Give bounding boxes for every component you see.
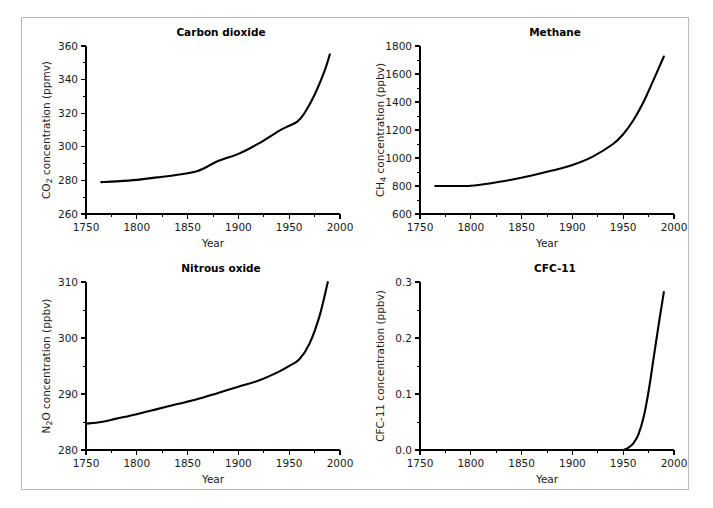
y-tick-label: 280 [58, 174, 78, 186]
x-tick-label: 1800 [123, 221, 150, 233]
x-tick-label: 1850 [174, 457, 201, 469]
x-tick-label: 2000 [327, 221, 354, 233]
panel-title: Nitrous oxide [181, 262, 260, 274]
y-tick-label: 600 [392, 208, 412, 220]
x-tick-label: 2000 [327, 457, 354, 469]
x-tick-label: 2000 [661, 221, 688, 233]
y-axis-title: CFC-11 concentration (ppbv) [374, 290, 386, 442]
x-tick-label: 1800 [123, 457, 150, 469]
x-tick-label: 1850 [508, 221, 535, 233]
x-tick-label: 1750 [407, 457, 434, 469]
x-tick-label: 1900 [225, 221, 252, 233]
y-tick-label: 800 [392, 180, 412, 192]
chart-panel-cfc-11: 0.00.10.20.3175018001850190019502000CFC-… [356, 254, 690, 490]
data-curve-carbon-dioxide [101, 54, 330, 182]
x-tick-label: 1950 [610, 457, 637, 469]
panel-title: CFC-11 [534, 262, 576, 274]
x-tick-label: 1850 [174, 221, 201, 233]
axis-spine [86, 282, 340, 450]
y-tick-label: 1000 [385, 152, 412, 164]
x-tick-label: 1950 [610, 221, 637, 233]
chart-svg-methane: 6008001000120014001600180017501800185019… [356, 18, 690, 254]
panel-grid: 2602803003203403601750180018501900195020… [22, 18, 688, 489]
x-tick-label: 1900 [559, 221, 586, 233]
x-tick-label: 1750 [73, 457, 100, 469]
panel-title: Methane [529, 26, 581, 38]
chart-svg-nitrous-oxide: 280290300310175018001850190019502000Nitr… [22, 254, 356, 490]
x-tick-label: 1900 [225, 457, 252, 469]
chart-panel-methane: 6008001000120014001600180017501800185019… [356, 18, 690, 254]
y-tick-label: 0.3 [395, 276, 412, 288]
x-tick-label: 1750 [407, 221, 434, 233]
y-tick-label: 1400 [385, 96, 412, 108]
x-tick-label: 1800 [457, 221, 484, 233]
chart-svg-carbon-dioxide: 2602803003203403601750180018501900195020… [22, 18, 356, 254]
data-curve-nitrous-oxide [86, 282, 328, 424]
y-tick-label: 0.1 [395, 388, 412, 400]
x-tick-label: 2000 [661, 457, 688, 469]
y-tick-label: 320 [58, 107, 78, 119]
svg-text:N2O concentration (ppbv): N2O concentration (ppbv) [40, 299, 55, 434]
svg-text:CFC-11 concentration (ppbv): CFC-11 concentration (ppbv) [374, 290, 386, 442]
svg-text:CO2 concentration (ppmv): CO2 concentration (ppmv) [40, 61, 55, 199]
y-tick-label: 280 [58, 444, 78, 456]
x-tick-label: 1800 [457, 457, 484, 469]
x-tick-label: 1900 [559, 457, 586, 469]
panel-title: Carbon dioxide [176, 26, 265, 38]
x-axis-title: Year [535, 237, 559, 249]
y-tick-label: 340 [58, 73, 78, 85]
y-tick-label: 1800 [385, 40, 412, 52]
x-tick-label: 1750 [73, 221, 100, 233]
axis-spine [86, 46, 340, 214]
x-axis-title: Year [201, 237, 225, 249]
y-tick-label: 0.2 [395, 332, 412, 344]
data-curve-cfc-11 [623, 292, 664, 450]
chart-panel-nitrous-oxide: 280290300310175018001850190019502000Nitr… [22, 254, 356, 490]
y-tick-label: 0.0 [395, 444, 412, 456]
data-curve-methane [435, 57, 664, 187]
y-axis-title: CO2 concentration (ppmv) [40, 61, 55, 199]
y-tick-label: 360 [58, 40, 78, 52]
x-tick-label: 1950 [276, 457, 303, 469]
x-tick-label: 1850 [508, 457, 535, 469]
axis-spine [420, 46, 674, 214]
y-axis-title: N2O concentration (ppbv) [40, 299, 55, 434]
x-tick-label: 1950 [276, 221, 303, 233]
x-axis-title: Year [201, 473, 225, 485]
axis-spine [420, 282, 674, 450]
y-tick-label: 300 [58, 140, 78, 152]
figure-frame: 2602803003203403601750180018501900195020… [21, 17, 689, 490]
y-tick-label: 310 [58, 276, 78, 288]
chart-svg-cfc-11: 0.00.10.20.3175018001850190019502000CFC-… [356, 254, 690, 490]
y-tick-label: 300 [58, 332, 78, 344]
y-tick-label: 290 [58, 388, 78, 400]
chart-panel-carbon-dioxide: 2602803003203403601750180018501900195020… [22, 18, 356, 254]
y-tick-label: 1600 [385, 68, 412, 80]
y-tick-label: 1200 [385, 124, 412, 136]
x-axis-title: Year [535, 473, 559, 485]
y-tick-label: 260 [58, 208, 78, 220]
